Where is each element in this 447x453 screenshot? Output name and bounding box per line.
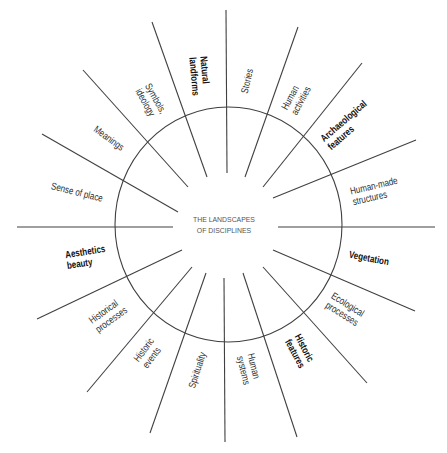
divider-line xyxy=(226,10,227,173)
divider-line xyxy=(224,278,225,442)
center-title-line-2: OF DISCIPLINES xyxy=(193,225,255,236)
center-title: THE LANDSCAPES OF DISCIPLINES xyxy=(193,214,255,236)
landscapes-of-disciplines-diagram: THE LANDSCAPES OF DISCIPLINES Stories Hu… xyxy=(0,0,447,453)
center-title-line-1: THE LANDSCAPES xyxy=(193,214,255,225)
sector-label-natural-landforms: Natural landforms xyxy=(187,56,212,96)
